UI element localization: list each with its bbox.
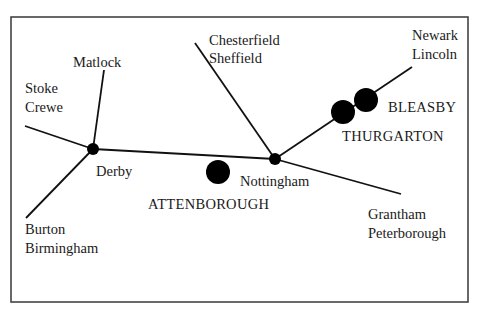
line-derby-nottingham xyxy=(93,149,275,159)
label-peterborough: Peterborough xyxy=(368,225,447,241)
label-bleasby: BLEASBY xyxy=(388,99,456,115)
label-birmingham: Birmingham xyxy=(25,240,99,256)
label-attenborough: ATTENBOROUGH xyxy=(148,196,269,212)
label-grantham: Grantham xyxy=(368,206,427,222)
junction-derby xyxy=(87,143,99,155)
station-bleasby xyxy=(354,88,378,112)
label-thurgarton: THURGARTON xyxy=(342,128,444,144)
line-matlock xyxy=(93,70,104,149)
label-crewe: Crewe xyxy=(25,99,63,115)
line-burton-birmingham xyxy=(26,149,93,218)
label-nottingham: Nottingham xyxy=(240,173,310,189)
label-derby: Derby xyxy=(96,163,133,179)
line-stoke-crewe xyxy=(25,126,93,149)
label-chesterfield: Chesterfield xyxy=(209,32,281,48)
railway-diagram: Matlock Stoke Crewe Burton Birmingham Ch… xyxy=(0,0,482,315)
label-burton: Burton xyxy=(25,221,66,237)
junction-nottingham xyxy=(269,153,281,165)
station-attenborough xyxy=(206,160,230,184)
station-thurgarton xyxy=(331,100,355,124)
label-sheffield: Sheffield xyxy=(209,50,263,66)
label-lincoln: Lincoln xyxy=(412,46,458,62)
label-stoke: Stoke xyxy=(25,80,58,96)
label-matlock: Matlock xyxy=(73,54,122,70)
label-newark: Newark xyxy=(412,27,459,43)
